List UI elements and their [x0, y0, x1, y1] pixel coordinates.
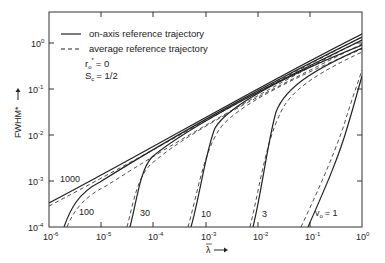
- curve-10-dashed: [188, 49, 362, 227]
- label-3: 3: [262, 209, 267, 219]
- svg-text:10-5: 10-5: [96, 231, 112, 242]
- legend-dashed-label: average reference trajectory: [89, 43, 208, 54]
- annotation-r0: ro*= 0: [85, 57, 109, 70]
- label-10: 10: [201, 209, 211, 219]
- y-tick-labels: 100 10-1 10-2 10-3 10-4: [28, 38, 45, 233]
- curve-30-dashed: [127, 44, 362, 227]
- y-axis-label: FWHM*: [13, 88, 23, 138]
- svg-text:10-3: 10-3: [201, 231, 217, 242]
- svg-text:100: 100: [356, 231, 370, 242]
- svg-text:10-4: 10-4: [148, 231, 164, 242]
- svg-text:λ: λ: [206, 245, 211, 255]
- label-30: 30: [140, 208, 150, 218]
- x-tick-labels: 10-6 10-5 10-4 10-3 10-2 10-1 100: [43, 231, 370, 242]
- curve-30-solid: [130, 40, 362, 227]
- legend: on-axis reference trajectory average ref…: [61, 28, 208, 82]
- curve-1-dashed: [301, 70, 362, 227]
- curve-10-solid: [191, 45, 362, 227]
- svg-text:10-1: 10-1: [305, 231, 321, 242]
- label-100: 100: [79, 207, 94, 217]
- svg-text:10-3: 10-3: [28, 176, 44, 187]
- svg-text:10-1: 10-1: [28, 84, 44, 95]
- label-1: vo= 1: [315, 208, 338, 219]
- svg-text:10-2: 10-2: [253, 231, 269, 242]
- label-1000: 1000: [60, 174, 80, 184]
- fwhm-vs-lambda-chart: 100 10-1 10-2 10-3 10-4 10-6 10-5 10-4 1…: [0, 0, 385, 263]
- legend-solid-label: on-axis reference trajectory: [89, 28, 204, 39]
- x-axis-label: λ: [206, 244, 228, 255]
- svg-text:10-4: 10-4: [28, 222, 44, 233]
- svg-text:100: 100: [31, 38, 45, 49]
- curve-3-solid: [253, 48, 362, 227]
- curve-1-solid: [308, 76, 362, 227]
- svg-text:FWHM*: FWHM*: [13, 106, 23, 138]
- svg-text:10-6: 10-6: [43, 231, 59, 242]
- svg-text:10-2: 10-2: [28, 130, 44, 141]
- annotation-sc: Sc= 1/2: [85, 70, 118, 82]
